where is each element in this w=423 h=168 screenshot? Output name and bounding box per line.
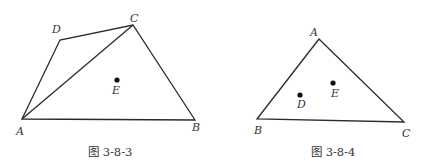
point-e [114,77,119,82]
caption-3-8-3: 图 3-8-3 [88,145,132,159]
figure-3-8-4: A B C D E 图 3-8-4 [253,26,411,159]
label-b: B [253,124,262,137]
label-a: A [15,125,24,138]
triangle-abc [257,39,404,122]
label-c: C [130,12,139,25]
quadrilateral-abcd [22,25,195,120]
label-b: B [191,121,200,134]
geometry-figures: A B C D E 图 3-8-3 A B C D E 图 3-8-4 [0,0,423,168]
point-e [330,80,335,85]
label-e: E [111,84,120,97]
label-a: A [309,26,318,39]
label-d: D [51,23,61,36]
label-c: C [402,127,411,140]
label-d: D [296,98,306,111]
figure-3-8-3: A B C D E 图 3-8-3 [15,12,200,159]
point-d [297,92,302,97]
caption-3-8-4: 图 3-8-4 [311,145,355,159]
label-e: E [330,87,339,100]
diagonal-ac [22,25,133,119]
